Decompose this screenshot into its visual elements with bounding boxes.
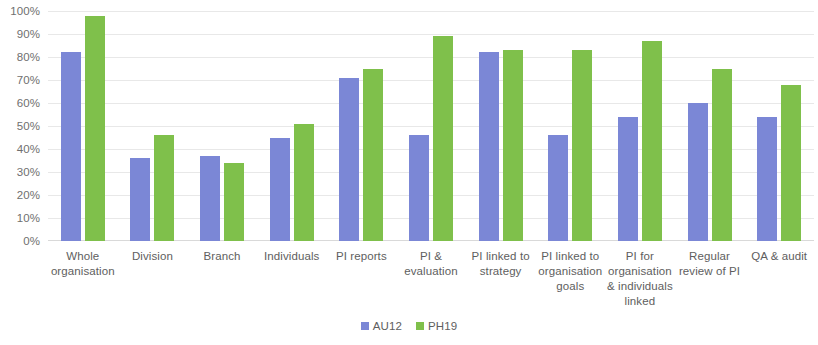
bar-au12[interactable] (479, 52, 499, 241)
bar-group (605, 11, 675, 241)
bar-au12[interactable] (618, 117, 638, 241)
y-axis-tick-label: 10% (17, 212, 40, 224)
bar-group (257, 11, 327, 241)
y-axis-tick-label: 80% (17, 51, 40, 63)
bar-ph19[interactable] (642, 41, 662, 241)
bar-group (675, 11, 745, 241)
x-axis-label-line: evaluation (392, 264, 470, 279)
y-axis-tick-label: 50% (17, 120, 40, 132)
bar-ph19[interactable] (503, 50, 523, 241)
x-axis-label-line: Regular (671, 249, 749, 264)
x-axis-category-label: PI linked tostrategy (462, 249, 540, 279)
bar-group (396, 11, 466, 241)
x-axis-label-line: goals (531, 279, 609, 294)
bar-au12[interactable] (130, 158, 150, 241)
bar-ph19[interactable] (294, 124, 314, 241)
bar-ph19[interactable] (712, 69, 732, 242)
bar-au12[interactable] (757, 117, 777, 241)
x-axis-category-label: Wholeorganisation (44, 249, 122, 279)
legend-item-ph19[interactable]: PH19 (416, 320, 457, 332)
y-axis-tick-label: 100% (10, 5, 40, 17)
y-axis-tick-label: 0% (23, 235, 40, 247)
y-axis: 100%90%80%70%60%50%40%30%20%10%0% (0, 0, 46, 252)
x-axis-category-label: Branch (183, 249, 261, 264)
x-axis-category-label: PI &evaluation (392, 249, 470, 279)
x-axis-category-label: PI linked toorganisationgoals (531, 249, 609, 294)
x-axis-label-line: organisation (531, 264, 609, 279)
bar-au12[interactable] (339, 78, 359, 241)
bar-ph19[interactable] (224, 163, 244, 241)
bar-ph19[interactable] (363, 69, 383, 242)
chart-legend: AU12PH19 (0, 320, 818, 332)
bar-ph19[interactable] (572, 50, 592, 241)
bar-group (327, 11, 397, 241)
x-axis-category-label: Regularreview of PI (671, 249, 749, 279)
bar-ph19[interactable] (85, 16, 105, 241)
x-axis-label-line: Whole (44, 249, 122, 264)
x-axis-label-line: review of PI (671, 264, 749, 279)
bar-group (48, 11, 118, 241)
bar-au12[interactable] (688, 103, 708, 241)
y-axis-tick-label: 90% (17, 28, 40, 40)
x-axis-label-line: & individuals (601, 279, 679, 294)
x-axis-label-line: PI linked to (462, 249, 540, 264)
x-axis-label-line: PI reports (323, 249, 401, 264)
bar-group (118, 11, 188, 241)
x-axis-label-line: Division (114, 249, 192, 264)
bar-group (187, 11, 257, 241)
y-axis-tick-label: 30% (17, 166, 40, 178)
x-axis-category-label: PI fororganisation& individualslinked (601, 249, 679, 309)
bar-ph19[interactable] (154, 135, 174, 241)
plot-area (48, 11, 814, 241)
bar-group (535, 11, 605, 241)
x-axis-category-label: PI reports (323, 249, 401, 264)
y-axis-tick-label: 60% (17, 97, 40, 109)
x-axis-label-line: PI linked to (531, 249, 609, 264)
x-axis-label-line: organisation (601, 264, 679, 279)
x-axis-label-line: Branch (183, 249, 261, 264)
y-axis-tick-label: 70% (17, 74, 40, 86)
x-axis-label-line: PI for (601, 249, 679, 264)
bar-ph19[interactable] (781, 85, 801, 241)
y-axis-tick-label: 20% (17, 189, 40, 201)
x-axis-label-line: strategy (462, 264, 540, 279)
y-axis-tick-label: 40% (17, 143, 40, 155)
x-axis-label-line: PI & (392, 249, 470, 264)
x-axis-label-line: linked (601, 294, 679, 309)
legend-swatch-icon (416, 322, 424, 330)
bar-group (744, 11, 814, 241)
legend-item-au12[interactable]: AU12 (361, 320, 402, 332)
legend-label: PH19 (428, 320, 457, 332)
bar-chart: 100%90%80%70%60%50%40%30%20%10%0% Wholeo… (0, 0, 818, 345)
x-axis-label-line: organisation (44, 264, 122, 279)
x-axis-label-line: QA & audit (740, 249, 818, 264)
bar-au12[interactable] (409, 135, 429, 241)
bar-ph19[interactable] (433, 36, 453, 241)
x-axis-category-label: Division (114, 249, 192, 264)
bar-au12[interactable] (200, 156, 220, 241)
legend-swatch-icon (361, 322, 369, 330)
x-axis-category-label: QA & audit (740, 249, 818, 264)
x-axis-label-line: Individuals (253, 249, 331, 264)
bar-au12[interactable] (61, 52, 81, 241)
bar-group (466, 11, 536, 241)
legend-label: AU12 (373, 320, 402, 332)
bar-au12[interactable] (548, 135, 568, 241)
bar-au12[interactable] (270, 138, 290, 242)
x-axis: WholeorganisationDivisionBranchIndividua… (48, 249, 814, 319)
x-axis-category-label: Individuals (253, 249, 331, 264)
